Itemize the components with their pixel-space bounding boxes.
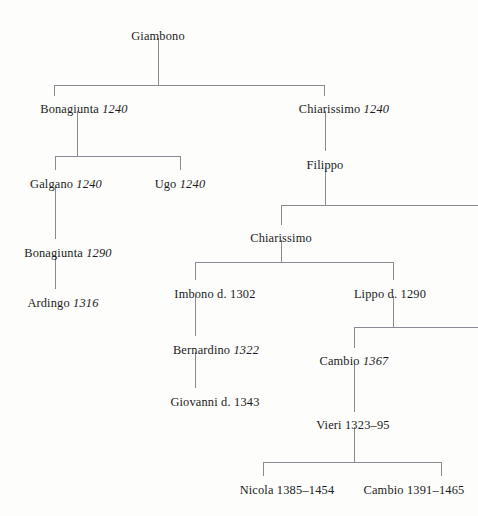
node-date: 1240 (76, 177, 102, 191)
node-name: Galgano (30, 177, 73, 191)
node-date: 1240 (102, 102, 128, 116)
node-date: 1385–1454 (277, 483, 335, 497)
tree-node-ugo: Ugo 1240 (155, 178, 206, 190)
node-date: 1391–1465 (407, 483, 465, 497)
tree-node-nicola: Nicola 1385–1454 (240, 484, 335, 496)
node-date: d. 1343 (221, 395, 260, 409)
node-name: Imbono (174, 287, 213, 301)
tree-node-vieri: Vieri 1323–95 (316, 419, 390, 431)
node-name: Bonagiunta (24, 246, 83, 260)
node-date: 1323–95 (345, 418, 390, 432)
node-name: Cambio (320, 354, 360, 368)
node-date: 1240 (180, 177, 206, 191)
tree-node-chiarissimo1: Chiarissimo 1240 (299, 103, 389, 115)
tree-node-bonagiunta2: Bonagiunta 1290 (24, 247, 111, 259)
node-name: Lippo (354, 287, 384, 301)
node-name: Giovanni (170, 395, 217, 409)
tree-node-imbono: Imbono d. 1302 (174, 288, 255, 300)
tree-node-galgano: Galgano 1240 (30, 178, 102, 190)
node-name: Nicola (240, 483, 274, 497)
tree-node-filippo: Filippo (307, 159, 344, 171)
node-name: Chiarissimo (250, 231, 312, 245)
tree-node-cambio2: Cambio 1391–1465 (364, 484, 465, 496)
node-date: 1240 (364, 102, 390, 116)
node-name: Bernardino (173, 343, 230, 357)
tree-node-lippo: Lippo d. 1290 (354, 288, 426, 300)
node-name: Ardingo (27, 296, 69, 310)
tree-node-bonagiunta1: Bonagiunta 1240 (40, 103, 127, 115)
node-date: 1316 (73, 296, 99, 310)
tree-node-ardingo: Ardingo 1316 (27, 297, 98, 309)
tree-node-bernardino: Bernardino 1322 (173, 344, 259, 356)
node-name: Cambio (364, 483, 404, 497)
node-name: Filippo (307, 158, 344, 172)
node-date: 1322 (233, 343, 259, 357)
node-name: Vieri (316, 418, 341, 432)
node-name: Giambono (131, 29, 185, 43)
node-date: 1367 (363, 354, 389, 368)
node-name: Chiarissimo (299, 102, 361, 116)
tree-node-giovanni: Giovanni d. 1343 (170, 396, 259, 408)
tree-node-giambono: Giambono (131, 30, 185, 42)
node-name: Ugo (155, 177, 177, 191)
tree-node-chiarissimo2: Chiarissimo (250, 232, 312, 244)
node-date: d. 1302 (217, 287, 256, 301)
node-date: d. 1290 (388, 287, 427, 301)
tree-node-cambio1: Cambio 1367 (320, 355, 389, 367)
node-date: 1290 (86, 246, 112, 260)
node-name: Bonagiunta (40, 102, 99, 116)
family-tree-diagram: GiambonoBonagiunta 1240Chiarissimo 1240G… (0, 0, 478, 516)
